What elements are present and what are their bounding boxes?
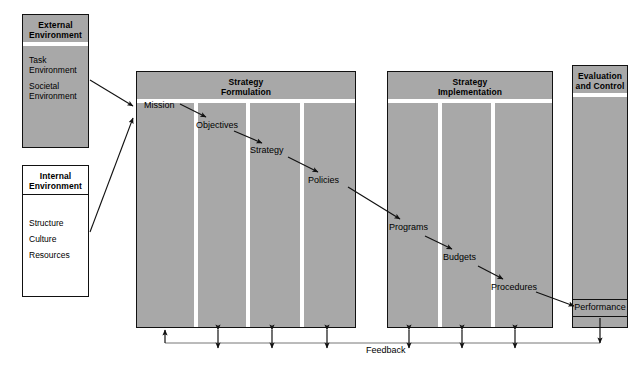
feedback-label: Feedback — [366, 345, 406, 356]
internal-environment-item-structure: Structure — [29, 218, 64, 229]
strategy-implementation-divider-1 — [438, 103, 442, 327]
internal-environment-header-line2: Environment — [23, 181, 88, 191]
external-environment-header-line2: Environment — [23, 30, 88, 40]
arrow-external-environment-to-formulation — [90, 80, 133, 106]
strategy-formulation-header-line2: Formulation — [137, 87, 355, 97]
strategy-implementation-divider-2 — [491, 103, 495, 327]
step-label-programs: Programs — [389, 222, 428, 233]
step-label-mission: Mission — [144, 100, 175, 111]
external-environment-item-societal-line2: Environment — [29, 91, 77, 102]
strategy-implementation-header-line2: Implementation — [388, 87, 552, 97]
external-environment-item-societal-line1: Societal — [29, 81, 59, 92]
internal-environment-item-culture: Culture — [29, 234, 56, 245]
evaluation-and-control-block: Evaluation and Control — [572, 65, 628, 328]
evaluation-and-control-header-line1: Evaluation — [573, 71, 627, 81]
internal-environment-box: Internal Environment Structure Culture R… — [22, 165, 89, 297]
step-label-budgets: Budgets — [443, 252, 476, 263]
evaluation-and-control-header-line2: and Control — [573, 81, 627, 91]
strategy-formulation-divider-2 — [246, 103, 250, 327]
internal-environment-header-divider — [23, 194, 88, 195]
strategic-management-diagram: External Environment Task Environment So… — [0, 0, 635, 372]
step-label-procedures: Procedures — [491, 282, 537, 293]
external-environment-box: External Environment Task Environment So… — [22, 14, 89, 148]
evaluation-and-control-header-divider — [573, 93, 627, 97]
step-label-policies: Policies — [308, 175, 339, 186]
arrow-internal-environment-to-formulation — [90, 118, 133, 232]
step-label-strategy: Strategy — [250, 145, 284, 156]
internal-environment-item-resources: Resources — [29, 250, 70, 261]
external-environment-header-line1: External — [23, 20, 88, 30]
internal-environment-header-line1: Internal — [23, 171, 88, 181]
strategy-implementation-header-line1: Strategy — [388, 77, 552, 87]
external-environment-item-task-line2: Environment — [29, 65, 77, 76]
strategy-formulation-header-line1: Strategy — [137, 77, 355, 87]
strategy-implementation-header-divider — [388, 99, 552, 103]
strategy-formulation-divider-3 — [300, 103, 304, 327]
step-label-objectives: Objectives — [196, 120, 238, 131]
strategy-formulation-divider-1 — [194, 103, 198, 327]
step-label-performance: Performance — [572, 299, 628, 317]
external-environment-item-task-line1: Task — [29, 55, 46, 66]
external-environment-header-divider — [23, 42, 88, 46]
